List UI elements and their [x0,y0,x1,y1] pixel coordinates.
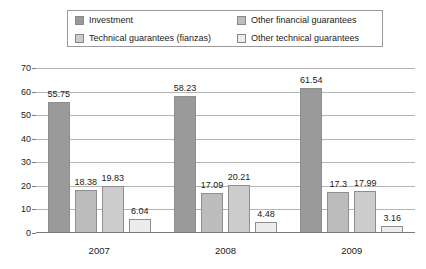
y-axis-tick-label: 30 [5,158,31,167]
y-axis-tick-label: 0 [5,229,31,238]
gridline [36,162,415,163]
bar [300,88,322,233]
legend-swatch-technical [75,34,84,43]
bar-value-label: 17.99 [348,179,382,188]
y-axis-tick-label: 40 [5,135,31,144]
y-axis-tick-label: 50 [5,111,31,120]
bar [354,191,376,233]
legend-item-investment: Investment [75,15,237,25]
y-axis-tick-label: 10 [5,205,31,214]
bar-value-label: 20.21 [222,173,256,182]
bar-value-label: 4.48 [249,210,283,219]
bar [48,102,70,233]
bar-value-label: 6.04 [123,207,157,216]
bar-value-label: 61.54 [294,76,328,85]
legend-label-other-financial: Other financial guarantees [251,15,357,25]
bar [129,219,151,233]
bar [174,96,196,233]
bar [75,190,97,233]
y-axis-tick-mark [32,233,36,234]
bar [327,192,349,233]
gridline [36,139,415,140]
x-axis-line [36,232,415,233]
gridline [36,115,415,116]
y-axis-tick-label: 20 [5,182,31,191]
legend-swatch-investment [75,16,84,25]
x-axis-group-label: 2009 [289,245,415,256]
bar-chart: Investment Other financial guarantees Te… [0,0,426,269]
y-axis-tick-label: 70 [5,64,31,73]
bar [201,193,223,233]
y-axis-tick-label: 60 [5,88,31,97]
legend-item-other-financial: Other financial guarantees [237,15,391,25]
legend-label-technical: Technical guarantees (fianzas) [89,33,211,43]
legend-label-other-technical: Other technical guarantees [251,33,359,43]
bar-value-label: 3.16 [375,214,409,223]
legend-item-technical: Technical guarantees (fianzas) [75,33,237,43]
chart-legend: Investment Other financial guarantees Te… [67,10,383,47]
plot-area [36,68,415,233]
x-axis-group-label: 2007 [36,245,162,256]
bar [102,186,124,233]
legend-item-other-technical: Other technical guarantees [237,33,391,43]
gridline [36,92,415,93]
x-axis-group-label: 2008 [162,245,288,256]
bar [228,185,250,233]
legend-swatch-other-technical [237,34,246,43]
bar-value-label: 19.83 [96,174,130,183]
bar-value-label: 58.23 [168,84,202,93]
legend-label-investment: Investment [89,15,133,25]
legend-swatch-other-financial [237,16,246,25]
bar-value-label: 55.75 [42,90,76,99]
gridline [36,68,415,69]
